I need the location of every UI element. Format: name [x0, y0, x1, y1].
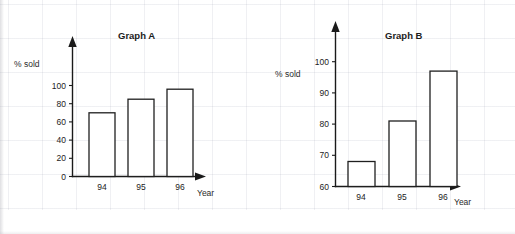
graph-b-ytick-100: 100 — [315, 57, 329, 67]
graph-a-svg: 0 20 40 60 80 100 94 95 96 % sold Year G… — [0, 0, 257, 234]
graph-a-cat-94: 94 — [97, 182, 107, 192]
y-axis-arrow-icon — [68, 36, 76, 47]
graph-a-ylabel: % sold — [14, 59, 40, 69]
graph-a-bar-96 — [167, 89, 193, 176]
graph-b-ytick-90: 90 — [320, 88, 330, 98]
graph-a-cat-96: 96 — [175, 182, 185, 192]
graph-b-cat-94: 94 — [356, 192, 366, 202]
graph-a-title: Graph A — [118, 30, 155, 41]
graph-b-ylabel: % sold — [275, 69, 301, 79]
graph-b-cat-96: 96 — [438, 192, 448, 202]
graph-b-bar-96 — [430, 71, 457, 186]
graph-a-y-axis — [68, 36, 76, 177]
graph-a-ytick-40: 40 — [57, 135, 67, 145]
graph-a-ytick-0: 0 — [61, 172, 66, 182]
graph-a-ytick-80: 80 — [57, 99, 67, 109]
graph-b-title: Graph B — [385, 30, 423, 41]
graph-a-bar-95 — [128, 99, 154, 176]
graph-a-ytick-100: 100 — [52, 81, 66, 91]
graph-b-cat-95: 95 — [397, 192, 407, 202]
worksheet-page: 0 20 40 60 80 100 94 95 96 % sold Year G… — [0, 0, 515, 234]
graph-b-svg: 60 70 80 90 100 94 95 96 % sold Year Gra… — [257, 0, 515, 234]
graph-b-ytick-70: 70 — [320, 150, 330, 160]
x-axis-arrow-icon — [195, 173, 206, 181]
graph-b-ytick-60: 60 — [320, 182, 330, 192]
graph-a-ytick-60: 60 — [57, 117, 67, 127]
graph-a-bar-94 — [89, 113, 115, 177]
graph-a-cat-95: 95 — [136, 182, 146, 192]
graph-b-xlabel: Year — [454, 197, 471, 207]
chart-graph-a: 0 20 40 60 80 100 94 95 96 % sold Year G… — [0, 0, 257, 234]
graph-a-xlabel: Year — [197, 188, 214, 198]
graph-b-y-axis — [331, 21, 339, 187]
graph-b-ytick-80: 80 — [320, 119, 330, 129]
chart-graph-b: 60 70 80 90 100 94 95 96 % sold Year Gra… — [257, 0, 515, 234]
graph-a-ytick-20: 20 — [57, 153, 67, 163]
y-axis-arrow-icon — [331, 21, 339, 32]
graph-b-bar-95 — [389, 121, 416, 187]
graph-b-bar-94 — [348, 162, 375, 187]
